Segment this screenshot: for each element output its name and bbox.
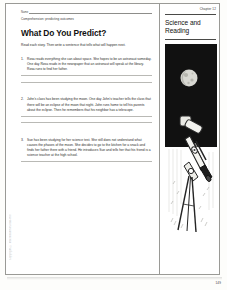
night-sky-block xyxy=(165,44,217,147)
item-text: Rosa reads everything she can about spac… xyxy=(27,57,152,72)
name-input-rule[interactable] xyxy=(29,13,152,14)
answer-line[interactable] xyxy=(21,82,152,83)
page-title: What Do You Predict? xyxy=(21,28,152,38)
story-item: 3. Sue has been studying for her science… xyxy=(21,138,152,158)
copyright-margin-note: Copyright © Macmillan/McGraw-Hill xyxy=(9,150,18,260)
chapter-label: Chapter 12 xyxy=(165,7,216,11)
story-item: 2. John's class has been studying the mo… xyxy=(21,97,152,112)
item-body: John's class has been studying the moon.… xyxy=(27,97,152,112)
answer-lines xyxy=(21,75,152,83)
item-body: Rosa reads everything she can about spac… xyxy=(27,57,152,72)
subject-divider xyxy=(165,39,216,40)
subject-title: Science and Reading xyxy=(165,19,216,35)
telescope-and-moon-illustration xyxy=(165,44,217,240)
worksheet-page: Copyright © Macmillan/McGraw-Hill Name C… xyxy=(0,0,227,290)
item-text: John's class has been studying the moon.… xyxy=(27,97,152,112)
worksheet-main-column: Name Comprehension: predicting outcomes … xyxy=(21,9,152,168)
item-text: Sue has been studying for her science te… xyxy=(27,138,152,158)
item-spacer xyxy=(21,129,152,138)
chapter-divider xyxy=(165,14,216,15)
story-item: 1. Rosa reads everything she can about s… xyxy=(21,57,152,72)
sidebar: Chapter 12 Science and Reading xyxy=(159,3,220,275)
telescope-illustration-svg xyxy=(165,44,217,240)
name-label: Name xyxy=(21,12,28,15)
answer-line[interactable] xyxy=(21,122,152,123)
page-shadow xyxy=(7,277,222,280)
directions-text: Read each story. Then write a sentence t… xyxy=(21,43,139,48)
answer-line[interactable] xyxy=(21,75,152,76)
answer-lines xyxy=(21,161,152,162)
answer-lines xyxy=(21,116,152,124)
skill-line: Comprehension: predicting outcomes xyxy=(21,17,152,21)
item-spacer xyxy=(21,88,152,97)
page-number: 149 xyxy=(215,281,221,285)
name-row: Name xyxy=(21,9,152,15)
answer-line[interactable] xyxy=(21,116,152,117)
answer-line[interactable] xyxy=(21,161,152,162)
item-body: Sue has been studying for her science te… xyxy=(27,138,152,158)
story-item-list: 1. Rosa reads everything she can about s… xyxy=(21,57,152,162)
